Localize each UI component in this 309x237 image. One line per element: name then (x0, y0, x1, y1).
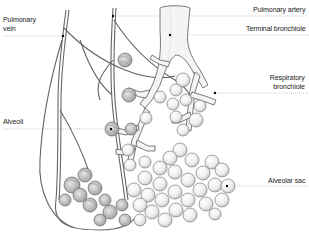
dot-pulmonary-vein (62, 35, 64, 37)
label-pulmonary-vein: Pulmonary vein (3, 15, 36, 33)
bronchial-tree (116, 6, 216, 161)
label-terminal-bronchiole: Terminal bronchiole (246, 24, 305, 33)
dot-terminal-bronchiole (169, 34, 171, 36)
dot-alveoli (110, 128, 112, 130)
dot-respiratory-bronchiole (214, 92, 216, 94)
dot-alveolar-sac (226, 185, 228, 187)
label-pulmonary-artery: Pulmonary artery (253, 5, 305, 14)
label-pulmonary-vein-line2: vein (3, 24, 36, 33)
label-respiratory-bronchiole-line2: bronchiole (270, 82, 305, 91)
label-respiratory-bronchiole-line1: Respiratory (270, 73, 305, 82)
label-alveolar-sac: Alveolar sac (268, 176, 305, 185)
dot-pulmonary-artery (112, 15, 114, 17)
label-respiratory-bronchiole: Respiratory bronchiole (270, 73, 305, 91)
label-pulmonary-vein-line1: Pulmonary (3, 15, 36, 24)
label-alveoli: Alveoli (3, 117, 23, 126)
lung-alveoli-diagram (0, 0, 309, 237)
